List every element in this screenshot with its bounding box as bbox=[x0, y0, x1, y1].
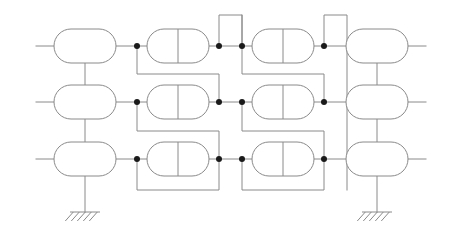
block-r1c2[interactable] bbox=[147, 29, 209, 63]
dot-r3-right-3 bbox=[321, 156, 327, 162]
block-r3c1[interactable] bbox=[54, 142, 116, 176]
block-r2c3[interactable] bbox=[252, 85, 314, 119]
block-r3c4-body bbox=[346, 142, 408, 176]
block-r2c4[interactable] bbox=[346, 85, 408, 119]
ground-layer bbox=[65, 212, 392, 221]
block-r2c1-body bbox=[54, 85, 116, 119]
schematic-canvas bbox=[0, 0, 452, 246]
dot-r1-right-2 bbox=[216, 43, 222, 49]
block-r3c3[interactable] bbox=[252, 142, 314, 176]
dot-r1-right-3 bbox=[321, 43, 327, 49]
block-r1c1-body bbox=[54, 29, 116, 63]
dot-r2-right-3 bbox=[321, 99, 327, 105]
block-r1c4[interactable] bbox=[346, 29, 408, 63]
dot-r2-left-2 bbox=[134, 99, 140, 105]
ground-left bbox=[65, 212, 100, 221]
block-r1c4-body bbox=[346, 29, 408, 63]
dot-r2-left-3 bbox=[239, 99, 245, 105]
toploop-g3 bbox=[324, 15, 347, 46]
block-r2c2[interactable] bbox=[147, 85, 209, 119]
diagram-root bbox=[0, 0, 452, 246]
dot-r3-left-2 bbox=[134, 156, 140, 162]
dot-r1-left-3 bbox=[239, 43, 245, 49]
toploop-g2 bbox=[219, 15, 242, 46]
block-r3c1-body bbox=[54, 142, 116, 176]
dot-r1-left-2 bbox=[134, 43, 140, 49]
block-r1c3[interactable] bbox=[252, 29, 314, 63]
block-r2c1[interactable] bbox=[54, 85, 116, 119]
block-r3c4[interactable] bbox=[346, 142, 408, 176]
dot-r3-left-3 bbox=[239, 156, 245, 162]
block-r3c2[interactable] bbox=[147, 142, 209, 176]
block-r2c4-body bbox=[346, 85, 408, 119]
dot-r2-right-2 bbox=[216, 99, 222, 105]
dot-r3-right-2 bbox=[216, 156, 222, 162]
block-r1c1[interactable] bbox=[54, 29, 116, 63]
ground-right bbox=[357, 212, 392, 221]
